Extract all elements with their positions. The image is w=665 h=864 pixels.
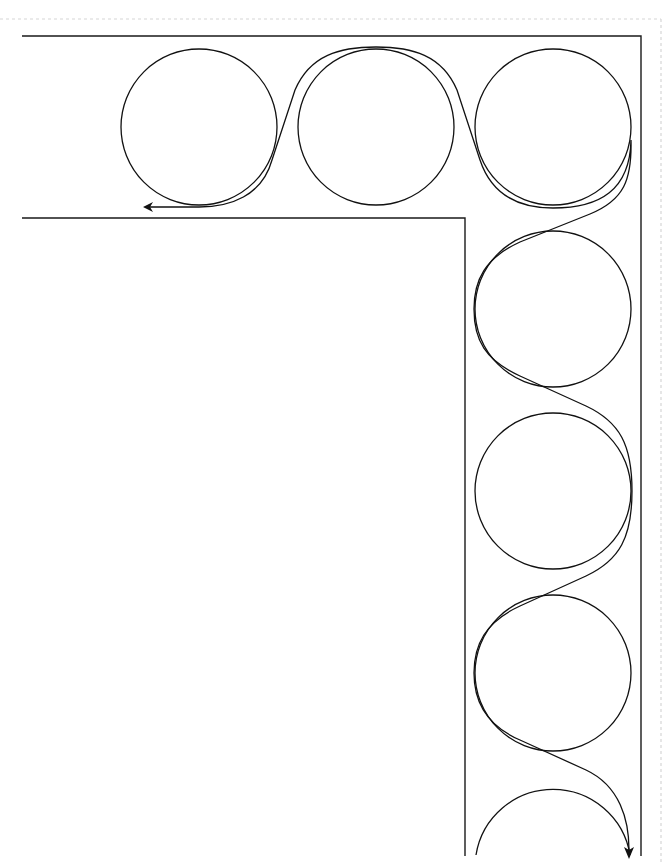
roller-7-partial [476,789,630,855]
inner-channel-wall [22,218,465,856]
belt-roller-diagram [0,0,665,864]
roller-5 [475,413,631,569]
rollers [121,49,631,855]
roller-2 [298,49,454,205]
roller-1 [121,49,277,205]
roller-3 [475,49,631,205]
